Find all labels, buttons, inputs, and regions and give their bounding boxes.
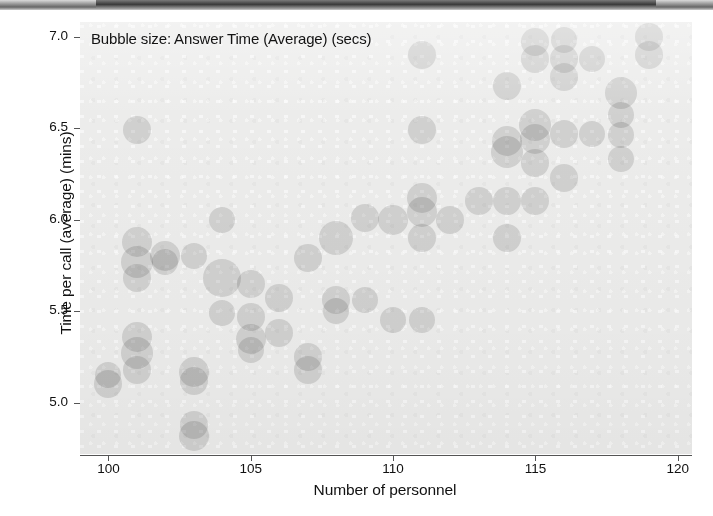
bubble-point: [203, 259, 241, 297]
bubble-point: [238, 337, 264, 363]
bubble-point: [493, 224, 521, 252]
bubble-point: [265, 284, 293, 312]
bubble-point: [521, 149, 549, 177]
y-tick-label: 5.0: [24, 394, 68, 409]
x-axis-label: Number of personnel: [80, 481, 690, 499]
bubble-point: [181, 243, 207, 269]
x-tick-label: 105: [221, 461, 281, 476]
bubble-point: [493, 187, 521, 215]
bubble-point: [408, 224, 436, 252]
x-tick-label: 115: [505, 461, 565, 476]
bubble-point: [323, 298, 349, 324]
bubble-point: [265, 319, 293, 347]
y-tick-mark: [74, 37, 80, 38]
bubble-point: [465, 187, 493, 215]
bubble-point: [209, 300, 235, 326]
y-tick-label: 7.0: [24, 28, 68, 43]
bubble-point: [319, 221, 353, 255]
bubble-point: [294, 356, 322, 384]
bubble-point: [123, 116, 151, 144]
bubble-chart-figure: Time per call (average) (mins) Bubble si…: [0, 0, 713, 516]
bubble-point: [378, 205, 408, 235]
bubble-point: [407, 197, 437, 227]
chart-title: Bubble size: Answer Time (Average) (secs…: [91, 30, 371, 47]
bubble-point: [493, 72, 521, 100]
bubble-point: [123, 356, 151, 384]
bubble-point: [550, 164, 578, 192]
bubble-point: [550, 63, 578, 91]
bubble-point: [152, 249, 178, 275]
plot-vignette: [80, 22, 692, 454]
bubble-point: [579, 121, 605, 147]
y-tick-mark: [74, 220, 80, 221]
bubble-point: [352, 287, 378, 313]
y-tick-mark: [74, 128, 80, 129]
x-tick-label: 110: [363, 461, 423, 476]
bubble-point: [408, 116, 436, 144]
bubble-point: [380, 307, 406, 333]
bubble-point: [408, 41, 436, 69]
x-tick-label: 120: [648, 461, 708, 476]
bubble-point: [237, 270, 265, 298]
x-axis-line: [80, 455, 692, 456]
bubble-point: [351, 204, 379, 232]
plot-texture: [80, 22, 692, 454]
bubble-point: [608, 122, 634, 148]
bubble-point: [123, 264, 151, 292]
plot-area: Bubble size: Answer Time (Average) (secs…: [80, 22, 692, 454]
bubble-point: [521, 45, 549, 73]
bubble-point: [608, 146, 634, 172]
y-tick-label: 5.5: [24, 302, 68, 317]
bubble-point: [579, 46, 605, 72]
bubble-point: [179, 421, 209, 451]
bubble-point: [491, 136, 523, 168]
bubble-point: [95, 362, 121, 388]
bubble-point: [521, 187, 549, 215]
y-tick-mark: [74, 311, 80, 312]
x-tick-label: 100: [78, 461, 138, 476]
bubble-point: [180, 367, 208, 395]
bubble-point: [209, 207, 235, 233]
y-tick-label: 6.5: [24, 119, 68, 134]
bubble-point: [409, 307, 435, 333]
y-tick-mark: [74, 403, 80, 404]
bubble-point: [635, 41, 663, 69]
bubble-point: [550, 120, 578, 148]
bubble-point: [436, 206, 464, 234]
y-tick-label: 6.0: [24, 211, 68, 226]
bubble-point: [294, 244, 322, 272]
